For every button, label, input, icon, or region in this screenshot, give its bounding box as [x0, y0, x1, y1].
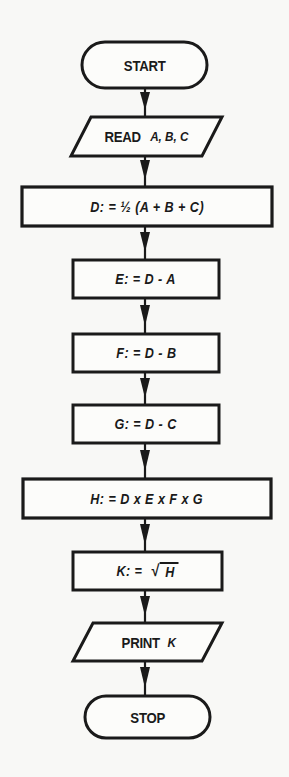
- node-start-shape: [82, 42, 207, 88]
- node-k-shape: [73, 552, 222, 590]
- node-d-shape: [22, 187, 272, 226]
- edge-g-h: [140, 443, 150, 478]
- node-e-shape: [73, 260, 219, 298]
- node-read-shape: [71, 117, 222, 156]
- edge-d-e: [140, 226, 150, 259]
- node-f-shape: [73, 334, 219, 372]
- edge-start-read: [140, 88, 150, 116]
- edge-e-f: [140, 298, 150, 333]
- edge-read-d: [140, 156, 150, 186]
- edge-h-k: [140, 518, 150, 551]
- node-g-shape: [73, 405, 219, 443]
- edge-print-stop: [140, 661, 150, 695]
- edge-k-print: [140, 590, 150, 622]
- edge-f-g: [140, 372, 150, 404]
- connectors: [140, 88, 150, 695]
- node-h-shape: [23, 479, 271, 518]
- node-stop-shape: [85, 696, 210, 738]
- flowchart-canvas: [0, 0, 289, 777]
- node-print-shape: [73, 623, 222, 661]
